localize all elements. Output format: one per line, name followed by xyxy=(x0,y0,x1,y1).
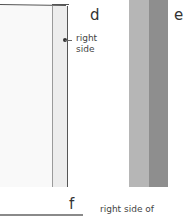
folded-strip xyxy=(52,6,68,187)
label-right-side-of: right side of xyxy=(100,204,154,215)
tape-light-half xyxy=(129,0,149,187)
folded-strip-top xyxy=(52,4,69,7)
panel-letter-d: d xyxy=(90,7,100,23)
fabric-panel xyxy=(0,5,52,187)
label-side: side xyxy=(76,44,94,55)
panel-letter-f: f xyxy=(69,196,74,212)
tape-dark-half xyxy=(149,0,168,187)
bottom-fabric-edge xyxy=(0,214,83,216)
panel-letter-e: e xyxy=(174,7,183,23)
label-right: right xyxy=(76,33,97,44)
pointer-leader-line xyxy=(65,40,72,41)
